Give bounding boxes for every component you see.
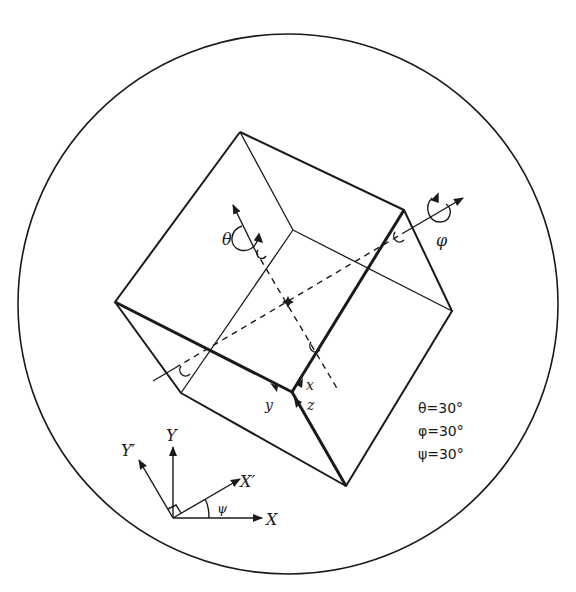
psi-angle-arc [205, 499, 209, 518]
theta-axis-dashed [255, 250, 338, 390]
y-local-label: y [264, 397, 274, 413]
theta-value: θ=30° [418, 400, 463, 416]
cube-front-edge-x [292, 210, 404, 392]
Y-prime-axis [139, 460, 173, 518]
theta-axis-arrow [233, 205, 255, 250]
phi-value: φ=30° [418, 423, 464, 439]
phi-axis-label: φ [436, 231, 448, 250]
theta-axis-label: θ [222, 230, 232, 249]
phi-axis-arrow [405, 198, 463, 232]
psi-label: ψ [217, 501, 228, 516]
X-prime-label: X′ [238, 472, 255, 491]
angle-values: θ=30° φ=30° ψ=30° [418, 400, 464, 462]
X-prime-axis [173, 479, 240, 518]
Y-prime-label: Y′ [121, 441, 136, 460]
cube-front-edge-y [115, 302, 292, 392]
phi-tail-arc-icon [180, 366, 190, 376]
psi-value: ψ=30° [418, 446, 464, 462]
phi-rotation-arc-icon [428, 198, 450, 222]
x-local-label: x [306, 377, 314, 393]
cube-inner-edge [293, 230, 452, 311]
cube-rotation-diagram: θ φ x y z θ=30° φ=30° ψ=30° X Y X′ Y′ ψ [0, 0, 576, 592]
z-local-label: z [306, 397, 315, 413]
phi-arc-arrowhead [432, 194, 438, 202]
rotation-axes [153, 198, 463, 390]
Y-label: Y [166, 426, 178, 445]
X-label: X [264, 510, 278, 529]
cube-inner-edge [181, 230, 293, 393]
theta-arc-arrowhead [255, 234, 262, 242]
cube-inner-edge [240, 132, 293, 230]
